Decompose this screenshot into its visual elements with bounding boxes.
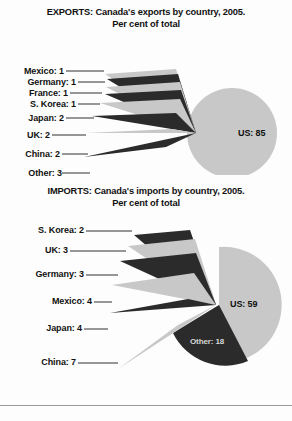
exports-label-china: China: 2 [25, 149, 60, 159]
exports-slice-other [84, 133, 196, 157]
exports-title-line1: EXPORTS: Canada's exports by country, 20… [47, 7, 246, 17]
bottom-divider [0, 405, 292, 406]
imports-pie-svg [0, 209, 292, 409]
imports-label-japan: Japan: 4 [46, 323, 82, 333]
imports-label-germany: Germany: 3 [35, 269, 84, 279]
imports-chart-block: IMPORTS: Canada's imports by country, 20… [0, 180, 292, 416]
imports-title-line2: Per cent of total [0, 198, 292, 210]
exports-label-uk: UK: 2 [27, 130, 50, 140]
imports-label-china: China: 7 [41, 357, 76, 367]
imports-label-other: Other: 18 [190, 337, 224, 346]
imports-chart-title: IMPORTS: Canada's imports by country, 20… [0, 180, 292, 209]
exports-label-mexico: Mexico: 1 [24, 66, 64, 76]
exports-chart-block: EXPORTS: Canada's exports by country, 20… [0, 0, 292, 180]
exports-label-france: France: 1 [29, 88, 68, 98]
exports-label-japan: Japan: 2 [28, 113, 64, 123]
imports-title-line1: IMPORTS: Canada's imports by country, 20… [47, 186, 244, 196]
exports-label-us: US: 85 [238, 128, 265, 138]
exports-title-line2: Per cent of total [0, 19, 292, 31]
exports-label-germany: Germany: 1 [27, 77, 76, 87]
imports-label-mexico: Mexico: 4 [52, 296, 92, 306]
imports-label-us: US: 59 [230, 299, 257, 309]
exports-pie-figure: Mexico: 1 Germany: 1 France: 1 S. Korea:… [0, 30, 292, 175]
exports-label-other: Other: 3 [28, 168, 62, 178]
imports-pie-figure: S. Korea: 2 UK: 3 Germany: 3 Mexico: 4 J… [0, 209, 292, 409]
imports-label-uk: UK: 3 [45, 245, 68, 255]
imports-label-skorea: S. Korea: 2 [38, 225, 84, 235]
exports-chart-title: EXPORTS: Canada's exports by country, 20… [0, 0, 292, 30]
exports-label-skorea: S. Korea: 1 [30, 99, 76, 109]
